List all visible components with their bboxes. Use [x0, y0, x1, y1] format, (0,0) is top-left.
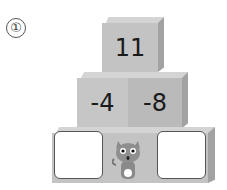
pyramid-middle-left-value: -4	[77, 78, 128, 128]
block-side-face	[158, 17, 164, 72]
block-side-face	[208, 127, 215, 183]
pyramid-top-value: 11	[102, 23, 158, 72]
answer-box-left[interactable]	[54, 131, 103, 179]
pyramid-middle-row: -4 -8	[77, 72, 188, 128]
pyramid-top-block: 11	[102, 17, 164, 72]
pyramid-middle-right-value: -8	[128, 78, 182, 128]
block-side-face	[182, 72, 188, 128]
cat-mascot-icon	[112, 137, 142, 181]
answer-box-right[interactable]	[157, 131, 206, 179]
problem-number-label: ①	[6, 18, 26, 38]
